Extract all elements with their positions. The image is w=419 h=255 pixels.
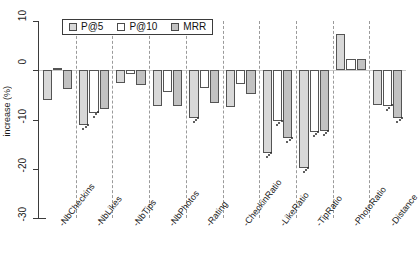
significance-marker [268,154,270,156]
bar-pat10-nbcheckins [53,68,62,70]
significance-marker [286,141,288,143]
significance-marker [327,130,329,132]
significance-marker [82,128,84,130]
significance-marker [276,124,278,126]
significance-marker [270,152,272,154]
significance-marker [325,132,327,134]
legend-item-pat10: P@10 [117,22,157,32]
significance-marker [399,119,401,121]
legend-label: MRR [183,22,206,32]
bar-pat5-nbtips [116,70,125,83]
bar-pat10-nblikes [89,70,98,112]
significance-marker [401,117,403,119]
bar-mrr-distance [393,70,402,118]
significance-marker [315,133,317,135]
significance-marker [266,156,268,158]
legend-label: P@5 [81,22,103,32]
significance-marker [95,113,97,115]
bar-pat5-tipratio [299,70,308,168]
significance-marker [289,139,291,141]
significance-marker [313,135,315,137]
bar-pat10-nbphotos [163,70,172,92]
legend-item-mrr: MRR [171,22,206,32]
bar-pat5-photoratio [336,34,345,70]
bar-mrr-likeratio [283,70,292,138]
significance-marker [303,171,305,173]
legend-item-pat5: P@5 [69,22,103,32]
bar-pat5-nbphotos [153,70,162,106]
bar-pat10-photoratio [346,59,355,70]
y-axis-title: increase (%) [2,86,12,137]
legend: P@5P@10MRR [62,19,213,35]
significance-marker [97,111,99,113]
significance-marker [85,126,87,128]
bar-pat5-rating [189,70,198,118]
bar-pat10-distance [383,70,392,105]
significance-marker [195,119,197,121]
significance-marker [323,134,325,136]
bar-mrr-nbcheckins [63,70,72,89]
significance-marker [388,107,390,109]
significance-marker [307,167,309,169]
bar-mrr-rating [210,70,219,103]
bar-pat5-likeratio [263,70,272,153]
significance-marker [291,137,293,139]
legend-label: P@10 [129,22,157,32]
significance-marker [386,109,388,111]
significance-marker [87,124,89,126]
bar-pat10-likeratio [273,70,282,121]
bar-mrr-nblikes [100,70,109,109]
bar-mrr-tipratio [320,70,329,131]
bar-pat10-checkinratio [236,70,245,83]
legend-swatch-icon [117,23,125,31]
bar-mrr-nbtips [136,70,145,84]
bar-pat5-nbcheckins [43,70,52,100]
significance-marker [396,121,398,123]
bar-pat5-nblikes [79,70,88,125]
bar-mrr-nbphotos [173,70,182,105]
significance-marker [193,121,195,123]
significance-marker [305,169,307,171]
bar-pat10-rating [200,70,209,88]
bar-mrr-photoratio [357,59,366,70]
bar-pat10-nbtips [126,70,135,73]
significance-marker [278,122,280,124]
legend-swatch-icon [171,23,179,31]
bar-pat5-checkinratio [226,70,235,106]
bar-mrr-checkinratio [246,70,255,94]
bar-pat5-distance [373,70,382,104]
significance-marker [93,116,95,118]
bar-pat10-tipratio [310,70,319,132]
legend-swatch-icon [69,23,77,31]
significance-marker [197,117,199,119]
